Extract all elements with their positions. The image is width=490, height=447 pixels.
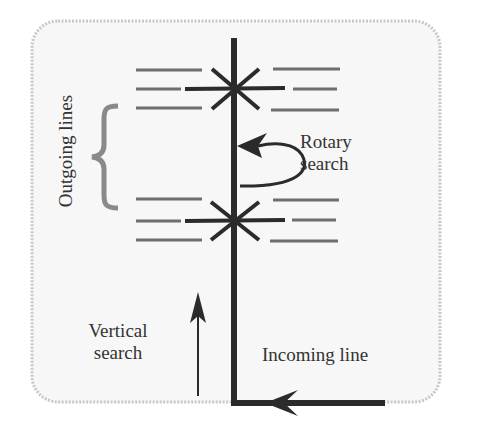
- outgoing-lines-label: Outgoing lines: [55, 91, 77, 211]
- rotary-search-label-line2: search: [300, 153, 390, 175]
- incoming-line-label: Incoming line: [262, 344, 402, 366]
- diagram-canvas: [0, 0, 490, 447]
- rotary-search-label: Rotary search: [300, 131, 390, 175]
- rotary-search-label-line1: Rotary: [300, 131, 390, 153]
- switching-diagram: Outgoing lines Rotary search Vertical se…: [0, 0, 490, 447]
- vertical-search-label-line1: Vertical: [78, 320, 158, 342]
- vertical-search-label: Vertical search: [78, 320, 158, 364]
- vertical-search-label-line2: search: [78, 342, 158, 364]
